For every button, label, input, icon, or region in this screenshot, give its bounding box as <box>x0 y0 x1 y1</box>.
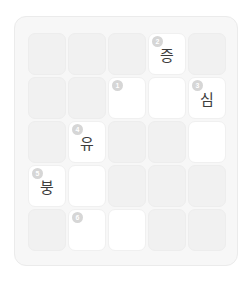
puzzle-root: 2증13심4유5붕6 <box>0 0 252 282</box>
grid-cell-r4c5 <box>188 165 226 207</box>
grid-cell-r4c3 <box>108 165 146 207</box>
grid-cell-r5c2[interactable]: 6 <box>68 209 106 251</box>
grid-cell-r3c1 <box>28 121 66 163</box>
grid-cell-r5c4 <box>148 209 186 251</box>
grid-cell-r3c2[interactable]: 4유 <box>68 121 106 163</box>
cell-letter: 심 <box>200 93 214 108</box>
cell-number-badge: 4 <box>72 124 83 135</box>
cell-number-badge: 2 <box>152 36 163 47</box>
cell-letter: 유 <box>80 137 94 152</box>
grid-cell-r5c1 <box>28 209 66 251</box>
cell-letter: 붕 <box>40 181 54 196</box>
grid-cell-r3c3 <box>108 121 146 163</box>
grid-cell-r5c3[interactable] <box>108 209 146 251</box>
cell-number-badge: 3 <box>192 80 203 91</box>
grid-cell-r3c4 <box>148 121 186 163</box>
grid-cell-r1c1 <box>28 33 66 75</box>
puzzle-card: 2증13심4유5붕6 <box>14 16 238 266</box>
cell-number-badge: 1 <box>112 80 123 91</box>
grid-cell-r3c5[interactable] <box>188 121 226 163</box>
cell-number-badge: 6 <box>72 212 83 223</box>
grid-cell-r2c1 <box>28 77 66 119</box>
grid-cell-r1c5 <box>188 33 226 75</box>
grid-cell-r2c5[interactable]: 3심 <box>188 77 226 119</box>
cell-letter: 증 <box>160 49 174 64</box>
grid-cell-r4c4 <box>148 165 186 207</box>
grid-cell-r1c3 <box>108 33 146 75</box>
grid-cell-r2c4[interactable] <box>148 77 186 119</box>
grid-cell-r2c3[interactable]: 1 <box>108 77 146 119</box>
cell-number-badge: 5 <box>32 168 43 179</box>
grid-cell-r2c2 <box>68 77 106 119</box>
grid-cell-r4c2[interactable] <box>68 165 106 207</box>
grid-cell-r1c2 <box>68 33 106 75</box>
grid-cell-r5c5 <box>188 209 226 251</box>
grid-cell-r4c1[interactable]: 5붕 <box>28 165 66 207</box>
crossword-grid: 2증13심4유5붕6 <box>28 33 226 251</box>
grid-cell-r1c4[interactable]: 2증 <box>148 33 186 75</box>
